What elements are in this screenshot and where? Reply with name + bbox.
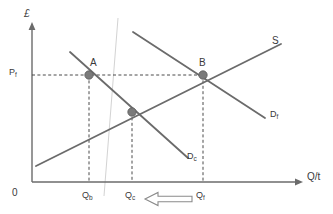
supply-curve-label: S <box>272 36 279 46</box>
chart-canvas <box>0 0 333 214</box>
point-a-label: A <box>90 58 97 68</box>
point-intersection-marker <box>128 108 136 116</box>
qf-tick-label: Qf <box>196 191 205 200</box>
demand-foreign-sub: f <box>277 113 279 120</box>
qc-tick-label: Qc <box>125 191 135 200</box>
qb-tick-sub: b <box>89 194 93 201</box>
leftward-shift-arrow <box>145 193 192 206</box>
qc-tick-sub: c <box>132 194 135 201</box>
demand-foreign-label: Df <box>270 110 278 119</box>
demand-current-curve <box>70 52 188 158</box>
qb-tick-label: Qb <box>82 191 93 200</box>
y-axis-arrowhead-icon <box>29 22 36 30</box>
demand-current-sub: c <box>194 155 197 162</box>
point-a-marker <box>85 71 93 79</box>
price-tick-sub: f <box>15 71 17 78</box>
point-b-label: B <box>199 58 206 68</box>
demand-foreign-letter: D <box>270 109 277 119</box>
origin-label: 0 <box>12 188 18 198</box>
demand-current-letter: D <box>187 151 194 161</box>
price-tick-label: Pf <box>9 68 17 77</box>
y-axis-label: £ <box>24 9 30 19</box>
x-axis-label: Q/t <box>307 172 320 182</box>
qc-tick-letter: Q <box>125 190 132 200</box>
qf-tick-sub: f <box>203 194 205 201</box>
x-axis-arrowhead-icon <box>295 179 303 186</box>
qb-tick-letter: Q <box>82 190 89 200</box>
point-b-marker <box>199 71 207 79</box>
supply-demand-diagram: £ Q/t 0 Pf Qb Qc Qf A B S Df Dc <box>0 0 333 214</box>
demand-current-label: Dc <box>187 152 197 161</box>
qf-tick-letter: Q <box>196 190 203 200</box>
faint-vertical-line <box>104 18 118 196</box>
